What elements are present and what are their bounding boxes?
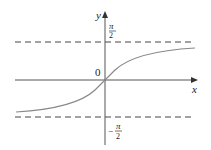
upper-tick-numerator: π xyxy=(109,21,114,31)
upper-tick-denominator: 2 xyxy=(109,31,113,40)
lower-tick-numerator: π xyxy=(116,121,121,131)
lower-tick-sign: − xyxy=(108,126,113,136)
arctan-graph: y x 0 π 2 − π 2 xyxy=(0,0,211,150)
origin-label: 0 xyxy=(95,66,101,78)
x-axis-label: x xyxy=(191,83,197,95)
lower-tick-denominator: 2 xyxy=(116,132,120,141)
y-axis-arrow xyxy=(102,11,108,18)
y-axis-label: y xyxy=(95,9,101,21)
